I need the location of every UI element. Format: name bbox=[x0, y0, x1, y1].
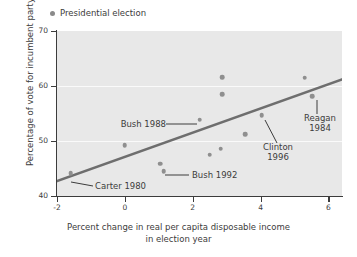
y-tick-label: 40 bbox=[38, 192, 48, 200]
x-tick-mark bbox=[193, 197, 194, 202]
x-tick-mark bbox=[57, 197, 58, 202]
data-point bbox=[218, 146, 223, 151]
annotation-reagan-1984-line-1: Reagan bbox=[296, 113, 344, 123]
y-tick-label: 60 bbox=[38, 82, 48, 90]
data-point bbox=[68, 171, 73, 176]
annotation-reagan-1984: Reagan 1984 bbox=[296, 113, 344, 133]
y-tick-mark bbox=[51, 141, 56, 142]
annotation-bush-1992-text: Bush 1992 bbox=[192, 170, 237, 180]
legend-marker-dot-icon bbox=[50, 11, 55, 16]
data-point bbox=[207, 152, 212, 157]
x-tick-label: 2 bbox=[190, 203, 195, 212]
y-tick-label: 50 bbox=[38, 137, 48, 145]
annotation-bush-1988: Bush 1988 bbox=[96, 119, 166, 129]
annotation-carter-1980-text: Carter 1980 bbox=[95, 181, 146, 191]
y-tick-mark bbox=[51, 196, 56, 197]
chart-legend: Presidential election bbox=[50, 7, 146, 19]
x-axis-title-line-2: in election year bbox=[0, 234, 357, 246]
y-axis-line bbox=[56, 30, 57, 197]
data-point bbox=[243, 132, 248, 137]
y-tick-mark bbox=[51, 31, 56, 32]
annotation-carter-1980: Carter 1980 bbox=[95, 181, 146, 191]
x-tick-label: -2 bbox=[53, 203, 60, 212]
annotation-bush-1992: Bush 1992 bbox=[192, 170, 237, 180]
data-point bbox=[197, 117, 202, 122]
x-axis-title: Percent change in real per capita dispos… bbox=[0, 222, 357, 245]
scatter-plot-figure: Presidential election 40506070 -20246 Pe… bbox=[0, 0, 357, 257]
annotation-reagan-1984-line-2: 1984 bbox=[296, 123, 344, 133]
x-tick-mark bbox=[328, 197, 329, 202]
x-axis-line bbox=[56, 196, 343, 197]
data-point bbox=[220, 75, 225, 80]
data-point bbox=[302, 75, 307, 80]
x-tick-label: 6 bbox=[326, 203, 331, 212]
x-tick-label: 4 bbox=[258, 203, 263, 212]
x-axis-title-line-1: Percent change in real per capita dispos… bbox=[0, 222, 357, 234]
x-tick-label: 0 bbox=[122, 203, 127, 212]
annotation-clinton-1996-line-2: 1996 bbox=[253, 152, 303, 162]
x-tick-mark bbox=[125, 197, 126, 202]
data-point bbox=[259, 113, 264, 118]
data-point bbox=[162, 169, 167, 174]
data-point bbox=[158, 161, 163, 166]
annotation-clinton-1996: Clinton 1996 bbox=[253, 142, 303, 162]
annotation-clinton-1996-line-1: Clinton bbox=[253, 142, 303, 152]
y-tick-label: 70 bbox=[38, 27, 48, 35]
legend-label: Presidential election bbox=[60, 8, 146, 18]
annotation-bush-1988-text: Bush 1988 bbox=[96, 119, 166, 129]
y-tick-mark bbox=[51, 86, 56, 87]
x-tick-mark bbox=[261, 197, 262, 202]
data-point bbox=[123, 143, 128, 148]
y-axis-title: Percentage of vote for incumbent party bbox=[25, 0, 35, 167]
data-point bbox=[220, 92, 225, 97]
data-point bbox=[310, 94, 315, 99]
